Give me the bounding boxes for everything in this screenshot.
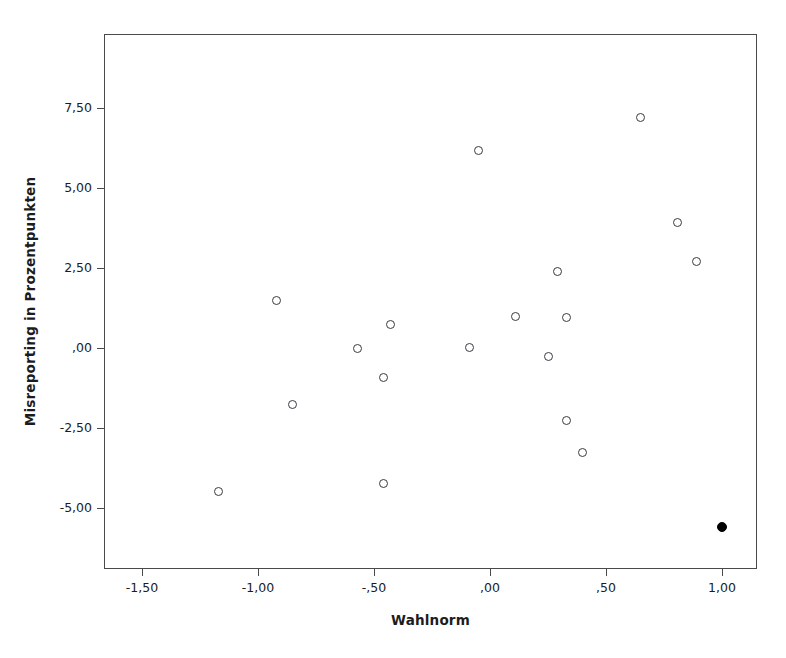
- x-axis-tick: [258, 569, 259, 576]
- y-axis-tick: [97, 108, 104, 109]
- x-axis-tick-label: 1,00: [692, 580, 752, 595]
- plot-area-frame: [104, 34, 757, 569]
- x-axis-tick: [490, 569, 491, 576]
- x-axis-tick-label: -1,00: [228, 580, 288, 595]
- y-axis-tick: [97, 508, 104, 509]
- y-axis-tick: [97, 428, 104, 429]
- x-axis-tick: [606, 569, 607, 576]
- data-point: [272, 296, 281, 305]
- x-axis-tick: [142, 569, 143, 576]
- x-axis-tick: [374, 569, 375, 576]
- x-axis-tick-label: -1,50: [112, 580, 172, 595]
- data-point: [288, 400, 297, 409]
- x-axis-tick-label: -,50: [344, 580, 404, 595]
- x-axis-tick: [722, 569, 723, 576]
- y-axis-tick: [97, 188, 104, 189]
- x-axis-title: Wahlnorm: [104, 612, 757, 628]
- data-point: [379, 479, 388, 488]
- data-point: [562, 416, 571, 425]
- y-axis-title: Misreporting in Prozentpunkten: [22, 34, 50, 569]
- y-axis-tick: [97, 268, 104, 269]
- scatterplot-figure: 7,505,002,50,00-2,50-5,00 -1,50-1,00-,50…: [0, 0, 786, 658]
- data-point: [465, 343, 474, 352]
- data-point: [544, 352, 553, 361]
- y-axis-tick: [97, 348, 104, 349]
- data-point: [379, 373, 388, 382]
- x-axis-tick-label: ,50: [576, 580, 636, 595]
- x-axis-tick-label: ,00: [460, 580, 520, 595]
- data-point: [214, 487, 223, 496]
